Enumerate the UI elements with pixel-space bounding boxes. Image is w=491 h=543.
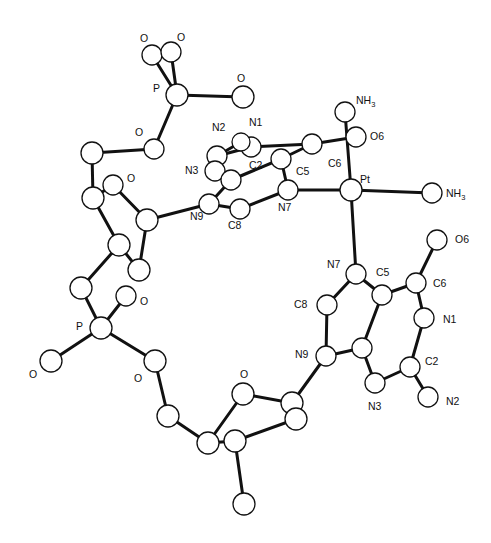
atom-label: N7	[278, 201, 292, 213]
atom-s1_c5p	[81, 142, 103, 164]
atom-label: O	[140, 295, 148, 307]
atom-label: C8	[228, 219, 242, 231]
atom-label: O	[240, 368, 248, 380]
atom-label: O	[127, 172, 135, 184]
atom-p_mid_o1	[116, 286, 136, 306]
atom-label: C2	[249, 159, 263, 171]
atom-s1_o4p	[103, 175, 123, 195]
atom-g1_c4	[221, 170, 241, 190]
bond-pt-nh3_right	[351, 190, 432, 193]
atom-label: O	[29, 368, 37, 380]
atom-label: P	[76, 320, 83, 332]
atom-label: O	[237, 72, 245, 84]
atom-g1_n2	[232, 133, 250, 151]
atom-g2_n2	[418, 387, 438, 407]
atom-nh3_right	[422, 183, 442, 203]
atom-label: C2	[425, 355, 439, 367]
atom-label: O6	[455, 233, 469, 245]
atom-label: O	[140, 32, 148, 44]
atom-label: C6	[328, 157, 342, 169]
atom-label: N9	[295, 348, 309, 360]
atom-s2_c3p	[224, 430, 246, 452]
atom-g2_c2	[400, 357, 420, 377]
atom-g2_c8	[317, 295, 337, 315]
atom-s1_c4p	[82, 187, 104, 209]
atom-label: N1	[249, 116, 263, 128]
atom-label: N1	[443, 313, 457, 325]
atom-p_mid_o5	[144, 350, 166, 372]
atom-pt	[340, 179, 362, 201]
atom-p_top	[166, 84, 188, 106]
atom-label: P	[153, 82, 160, 94]
atom-g2_n9	[316, 346, 336, 366]
ortep-molecule-drawing: PtNH3NH3O6N1N2C2C6N3C5N7N9C8O6N7C5C6C8N1…	[0, 0, 491, 543]
atom-s2_c4p	[197, 432, 219, 454]
atom-label: Pt	[360, 173, 370, 185]
atom-label: O	[134, 372, 142, 384]
molecular-structure-diagram: PtNH3NH3O6N1N2C2C6N3C5N7N9C8O6N7C5C6C8N1…	[0, 0, 491, 543]
atom-g1_c6	[302, 134, 322, 154]
atom-label: O6	[370, 130, 384, 142]
atom-s1_o3p	[70, 277, 92, 299]
atom-g2_c6	[406, 273, 426, 293]
atom-s2_c_ext	[233, 493, 255, 515]
atom-label: N3	[368, 400, 382, 412]
atom-label: N7	[327, 258, 341, 270]
atom-label: O	[135, 126, 143, 138]
atom-p_top_o2	[161, 42, 181, 62]
atom-s2_c2p	[285, 408, 307, 430]
atom-label: N2	[212, 121, 226, 133]
atom-layer	[40, 42, 447, 515]
atom-g2_n7	[346, 264, 366, 284]
atom-label: N3	[185, 164, 199, 176]
atom-label: NH3	[356, 94, 375, 109]
atom-label: C6	[433, 277, 447, 289]
atom-p_mid_o2	[40, 350, 62, 372]
atom-label: C5	[296, 165, 310, 177]
atom-label: N9	[190, 210, 204, 222]
atom-label: C5	[376, 266, 390, 278]
atom-s1_c2p	[128, 259, 150, 281]
atom-s2_c5p	[157, 405, 179, 427]
atom-g1_o6	[346, 127, 366, 147]
atom-s1_c3p	[108, 234, 130, 256]
atom-g1_n7	[278, 180, 298, 200]
atom-g2_c5	[372, 285, 392, 305]
atom-s1_c1p	[136, 209, 158, 231]
atom-g2_c4	[352, 338, 372, 358]
atom-g1_c8	[230, 199, 250, 219]
atom-g1_c5	[271, 149, 291, 169]
atom-p_top_o3	[232, 86, 254, 108]
atom-p_top_o4	[144, 139, 164, 159]
atom-nh3_top	[335, 102, 355, 122]
atom-label: O	[177, 31, 185, 43]
atom-s2_o4p	[232, 383, 254, 405]
atom-p_top_o1	[142, 45, 162, 65]
atom-label: NH3	[446, 187, 465, 202]
atom-g2_n1	[414, 308, 434, 328]
atom-label: C8	[294, 298, 308, 310]
atom-label: N2	[446, 395, 460, 407]
bond-pt-nh3_top	[345, 112, 351, 190]
bond-pt-g2_n7	[351, 190, 356, 274]
atom-g2_o6	[427, 230, 447, 250]
atom-g2_n3	[365, 373, 385, 393]
atom-p_mid	[90, 317, 112, 339]
